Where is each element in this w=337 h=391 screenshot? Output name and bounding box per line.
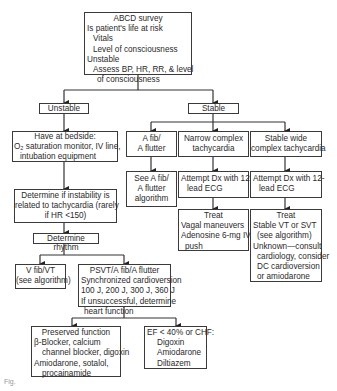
bedside-line: intubation equipment <box>14 152 116 162</box>
stable-label: Stable <box>202 104 225 113</box>
treat-wide-line: Treat <box>253 211 319 221</box>
abcd-title: ABCD survey <box>87 14 189 24</box>
abcd-line: Vitals <box>87 34 189 44</box>
psvt-line: 100 J, 200 J, 300 J, 360 J <box>81 286 168 296</box>
bedside-line: O₂ saturation monitor, IV line, <box>14 142 116 152</box>
preserved-line: Amiodarone, sotalol, <box>34 359 118 369</box>
afib-line: A flutter <box>129 144 174 154</box>
abcd-line: Unstable <box>87 55 189 65</box>
vfib-box: V fib/VT (see algorithm) <box>15 264 66 289</box>
wide-line: Stable wide <box>251 134 321 144</box>
instability-line: Determine if instability is <box>15 191 116 201</box>
see-afib-line: algorithm <box>129 194 174 204</box>
psvt-line: Synchronized cardioversion <box>81 276 168 286</box>
abcd-line: Level of consciousness <box>87 45 189 55</box>
abcd-line: Is patient's life at risk <box>87 24 189 34</box>
wide-complex-box: Stable wide complex tachycardia <box>250 131 322 157</box>
afib-box: A fib/ A flutter <box>126 131 177 157</box>
psvt-line: heart function <box>81 307 168 317</box>
ecg-wide-box: Attempt Dx with 12- lead ECG <box>250 171 322 198</box>
see-afib-line: A flutter <box>129 184 174 194</box>
treat-narrow-line: push <box>181 242 246 252</box>
stable-box: Stable <box>188 103 239 114</box>
see-afib-line: See A fib/ <box>129 174 174 184</box>
see-afib-box: See A fib/ A flutter algorithm <box>126 171 177 207</box>
vfib-line: (see algorithm) <box>16 276 65 286</box>
preserved-function-box: Preserved function β-Blocker, calcium ch… <box>31 326 121 377</box>
unstable-label: Unstable <box>48 104 80 113</box>
psvt-line: PSVT/A fib/A flutter <box>81 266 168 276</box>
treat-wide-line: cardiology, consider <box>253 252 319 262</box>
ef-line: EF < 40% or CHF: <box>147 328 204 338</box>
ef-line: Digoxin <box>147 338 204 348</box>
unstable-box: Unstable <box>39 103 89 114</box>
treat-wide-line: (see algorithm) <box>253 231 319 241</box>
ecg-narrow-box: Attempt Dx with 12- lead ECG <box>178 171 249 198</box>
afib-line: A fib/ <box>129 134 174 144</box>
determine-instability-box: Determine if instability is related to t… <box>14 189 117 223</box>
vfib-line: V fib/VT <box>16 266 65 276</box>
bedside-box: Have at bedside: O₂ saturation monitor, … <box>12 131 118 162</box>
narrow-line: Narrow complex <box>181 134 246 144</box>
preserved-line: Preserved function <box>34 328 118 338</box>
treat-narrow-line: Vagal maneuvers <box>181 221 246 231</box>
ef-line: Diltiazem <box>147 359 204 369</box>
abcd-line: Assess BP, HR, RR, & level <box>87 65 189 75</box>
treat-wide-line: Stable VT or SVT <box>253 221 319 231</box>
instability-line: if HR <150) <box>15 211 116 221</box>
instability-line: related to tachycardia (rarely <box>15 201 116 211</box>
preserved-line: channel blocker, digoxin <box>34 348 118 358</box>
narrow-complex-box: Narrow complex tachycardia <box>178 131 249 157</box>
figure-caption: Fig. <box>4 378 16 385</box>
ecg-narrow-line: Attempt Dx with 12- <box>181 174 246 184</box>
treat-wide-line: DC cardioversion <box>253 262 319 272</box>
treat-wide-line: Unknown—consult <box>253 242 319 252</box>
determine-rhythm-box: Determine rhythm <box>33 233 99 244</box>
abcd-line: of consciousness <box>87 75 189 85</box>
treat-wide-line: or amiodarone <box>253 272 319 282</box>
wide-line: complex tachycardia <box>251 144 321 154</box>
bedside-line: Have at bedside: <box>14 132 116 142</box>
ef-chf-box: EF < 40% or CHF: Digoxin Amiodarone Dilt… <box>144 326 207 369</box>
psvt-line: If unsuccessful, determine <box>81 297 168 307</box>
treat-wide-box: Treat Stable VT or SVT (see algorithm) U… <box>250 209 322 282</box>
abcd-survey-box: ABCD survey Is patient's life at risk Vi… <box>84 12 192 75</box>
preserved-line: β-Blocker, calcium <box>34 338 118 348</box>
ecg-narrow-line: lead ECG <box>181 184 246 194</box>
treat-narrow-line: Adenosine 6-mg IV <box>181 231 246 241</box>
narrow-line: tachycardia <box>181 144 246 154</box>
ecg-wide-line: lead ECG <box>253 184 319 194</box>
ecg-wide-line: Attempt Dx with 12- <box>253 174 319 184</box>
ef-line: Amiodarone <box>147 348 204 358</box>
preserved-line: procainamide <box>34 369 118 379</box>
treat-narrow-line: Treat <box>181 211 246 221</box>
treat-narrow-box: Treat Vagal maneuvers Adenosine 6-mg IV … <box>178 209 249 251</box>
psvt-box: PSVT/A fib/A flutter Synchronized cardio… <box>78 264 171 307</box>
